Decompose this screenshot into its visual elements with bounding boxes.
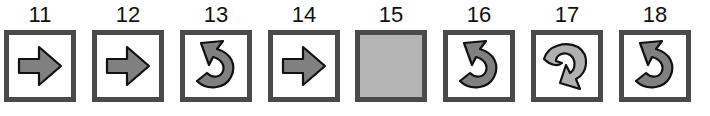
item-number: 11 [4,3,76,27]
item-number: 16 [443,3,515,27]
counterclockwise-curl-arrow-icon [185,35,247,97]
right-arrow-icon [9,35,71,97]
item-box [531,30,603,102]
item-number: 17 [531,3,603,27]
item-box [268,30,340,102]
blank-gray-square-icon [355,30,427,102]
item-number: 15 [355,3,427,27]
sequence-item-16: 16 [443,0,515,116]
sequence-item-15: 15 [355,0,427,116]
item-number: 12 [92,3,164,27]
right-arrow-icon [97,35,159,97]
item-box [180,30,252,102]
sequence-item-17: 17 [531,0,603,116]
counterclockwise-curl-arrow-icon [448,35,510,97]
sequence-item-13: 13 [180,0,252,116]
item-number: 14 [268,3,340,27]
item-number: 18 [619,3,691,27]
sequence-item-12: 12 [92,0,164,116]
sequence-item-11: 11 [4,0,76,116]
item-box [443,30,515,102]
right-arrow-icon [273,35,335,97]
sequence-item-18: 18 [619,0,691,116]
clockwise-curl-arrow-icon [536,35,598,97]
item-box [4,30,76,102]
item-box [92,30,164,102]
counterclockwise-curl-arrow-icon [624,35,686,97]
item-number: 13 [180,3,252,27]
item-box [619,30,691,102]
sequence-item-14: 14 [268,0,340,116]
